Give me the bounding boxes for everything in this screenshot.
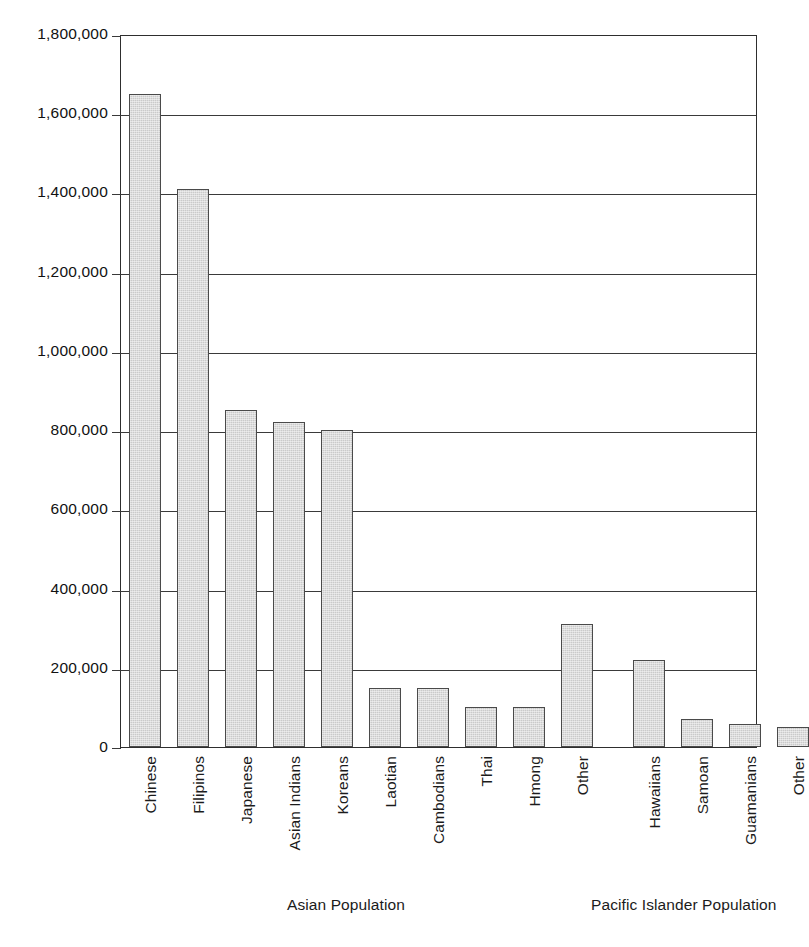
y-tick-label: 1,600,000	[12, 104, 108, 122]
y-tick-label: 200,000	[12, 659, 108, 677]
y-tick-1800000	[112, 36, 121, 37]
x-category-label-japanese: Japanese	[238, 756, 256, 824]
x-category-label-chinese: Chinese	[142, 756, 160, 814]
x-category-label-filipinos: Filipinos	[190, 756, 208, 814]
bar-other-pacific	[777, 727, 809, 747]
bar-cambodians	[417, 688, 449, 747]
y-tick-label: 0	[12, 738, 108, 756]
bar-hawaiians	[633, 660, 665, 747]
bar-koreans	[321, 430, 353, 747]
bar-asian-indians	[273, 422, 305, 747]
bar-thai	[465, 707, 497, 747]
x-category-label-samoan: Samoan	[694, 756, 712, 814]
y-tick-0	[112, 748, 121, 749]
x-category-label-thai: Thai	[478, 756, 496, 787]
gridline-600000	[121, 511, 756, 512]
y-tick-label: 800,000	[12, 421, 108, 439]
x-category-label-hawaiians: Hawaiians	[646, 756, 664, 828]
bar-filipinos	[177, 189, 209, 747]
plot-area	[120, 35, 757, 748]
y-tick-label: 400,000	[12, 580, 108, 598]
y-tick-200000	[112, 670, 121, 671]
gridline-800000	[121, 432, 756, 433]
y-tick-1000000	[112, 353, 121, 354]
x-category-label-other-asian: Other	[574, 756, 592, 795]
bar-samoan	[681, 719, 713, 747]
gridline-1000000	[121, 353, 756, 354]
x-category-label-koreans: Koreans	[334, 756, 352, 814]
y-tick-label: 600,000	[12, 500, 108, 518]
x-category-label-hmong: Hmong	[526, 756, 544, 806]
y-tick-800000	[112, 432, 121, 433]
x-category-label-laotian: Laotian	[382, 756, 400, 808]
y-tick-400000	[112, 591, 121, 592]
gridline-1600000	[121, 115, 756, 116]
bar-chinese	[129, 94, 161, 747]
bar-guamanians	[729, 724, 761, 747]
x-category-label-cambodians: Cambodians	[430, 756, 448, 844]
y-tick-label: 1,800,000	[12, 25, 108, 43]
gridline-400000	[121, 591, 756, 592]
group-label-pacific-islander-population: Pacific Islander Population	[591, 896, 776, 914]
gridline-1200000	[121, 274, 756, 275]
group-label-asian-population: Asian Population	[287, 896, 405, 914]
bar-other-asian	[561, 624, 593, 747]
y-tick-label: 1,200,000	[12, 263, 108, 281]
x-category-label-other-pacific: Other	[790, 756, 808, 795]
gridline-1400000	[121, 194, 756, 195]
bar-hmong	[513, 707, 545, 747]
y-tick-1600000	[112, 115, 121, 116]
y-tick-label: 1,000,000	[12, 342, 108, 360]
y-tick-1200000	[112, 274, 121, 275]
x-category-label-guamanians: Guamanians	[742, 756, 760, 845]
bar-laotian	[369, 688, 401, 747]
y-tick-label: 1,400,000	[12, 183, 108, 201]
y-tick-600000	[112, 511, 121, 512]
y-tick-1400000	[112, 194, 121, 195]
x-category-label-asian-indians: Asian Indians	[286, 756, 304, 850]
bar-japanese	[225, 410, 257, 747]
